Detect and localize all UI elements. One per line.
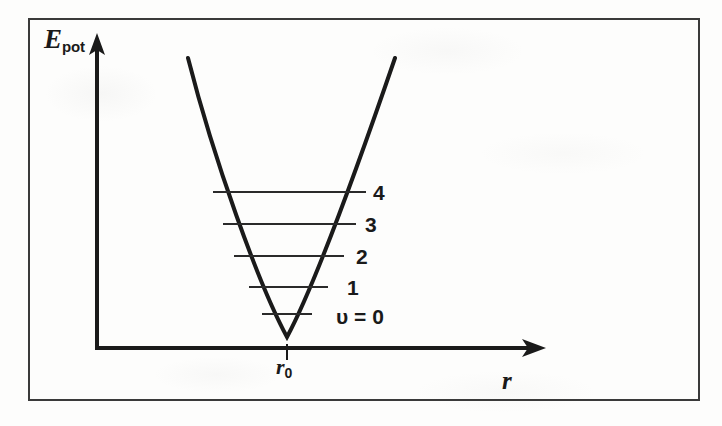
energy-level-label-4: 4 bbox=[373, 182, 385, 203]
y-axis bbox=[89, 33, 105, 348]
y-axis-subscript: pot bbox=[62, 38, 85, 55]
energy-level-label-2: 2 bbox=[356, 246, 368, 267]
x-axis-label: r bbox=[502, 368, 512, 393]
figure-root: Epot r r0 4 3 2 1 υ = 0 bbox=[0, 0, 722, 426]
r0-subscript: 0 bbox=[285, 365, 293, 381]
y-axis-label: Epot bbox=[44, 26, 85, 54]
y-axis-symbol: E bbox=[44, 24, 62, 54]
r0-symbol: r bbox=[276, 354, 285, 379]
energy-level-label-3: 3 bbox=[365, 214, 377, 235]
r0-tick-label: r0 bbox=[276, 356, 292, 380]
potential-curve bbox=[188, 58, 395, 337]
x-axis bbox=[95, 339, 546, 357]
energy-level-label-1: 1 bbox=[347, 277, 359, 298]
potential-energy-plot bbox=[0, 0, 722, 426]
energy-level-label-0: υ = 0 bbox=[336, 306, 384, 327]
